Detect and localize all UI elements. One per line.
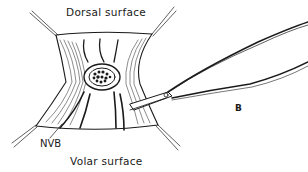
- dorsal-vessels: [84, 39, 119, 62]
- volar-surface-label: Volar surface: [70, 156, 143, 167]
- retractor-top-left: [30, 11, 58, 36]
- dorsal-surface-label: Dorsal surface: [66, 7, 146, 18]
- nvb-label: NVB: [40, 139, 61, 149]
- retractor-bottom-left: [12, 125, 37, 147]
- retractor-bottom-right: [156, 125, 180, 150]
- retractor-top-right: [152, 7, 176, 36]
- tissue-hatching-right: [126, 38, 150, 124]
- nvb-pointer: [50, 124, 62, 138]
- tendon-cross-section: [84, 64, 120, 90]
- volar-bundles: [60, 92, 124, 130]
- scissors-instrument: [130, 22, 308, 110]
- instrument-label: B: [235, 104, 242, 113]
